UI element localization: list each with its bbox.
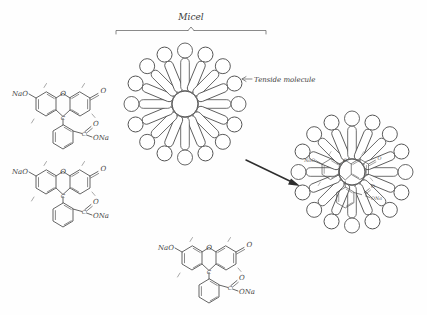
ether-oxygen-label-3: O [206, 244, 212, 252]
tenside-callout [242, 77, 252, 82]
phenolate-label-2: NaO [11, 168, 28, 176]
ketone-oxygen-label-3: O [247, 241, 253, 249]
carboxyl-carbon-label-1: C [82, 131, 87, 137]
bridge-carbon-label-2: C [61, 193, 66, 199]
phenolate-label-3: NaO [157, 244, 174, 252]
fluorescein-molecule-top-left: NaO O O C C O ONa [11, 84, 109, 150]
carboxyl-carbon-label-2: C [82, 209, 87, 215]
micelle-title: Micel [177, 12, 203, 22]
ether-oxygen-label-2: O [60, 168, 66, 176]
carbonyl-oxygen-label-1: O [93, 120, 99, 128]
carbonyl-oxygen-label-2: O [93, 198, 99, 206]
carboxyl-carbon-label-3: C [228, 285, 233, 291]
micelle-bracket [116, 27, 266, 34]
embedded-ketone-label-a: O [378, 156, 382, 161]
ether-oxygen-label-1: O [60, 90, 66, 98]
ketone-oxygen-label-1: O [101, 87, 107, 95]
bridge-carbon-label-3: C [207, 269, 212, 275]
hand-drawn-micelle-diagram: Micel [0, 0, 427, 315]
tenside-callout-label: Tenside molecule [254, 76, 316, 84]
embedded-carbonyl-label-a: O [371, 184, 375, 189]
ketone-oxygen-label-2: O [101, 165, 107, 173]
fluorescein-molecule-bottom: NaO O O C C O ONa [157, 238, 255, 304]
embedded-phenolate-label-a: NaO [303, 158, 315, 163]
phenolate-label-1: NaO [11, 90, 28, 98]
embedded-carboxylate-label-a: ONa [371, 196, 382, 201]
carboxylate-label-3: ONa [239, 288, 255, 296]
carbonyl-oxygen-label-3: O [239, 274, 245, 282]
fluorescein-molecule-mid-left: NaO O O C C O ONa [11, 162, 109, 228]
loaded-micelle: NaO O O O ONa [291, 111, 413, 233]
empty-micelle [124, 43, 246, 165]
carboxylate-label-2: ONa [93, 212, 109, 220]
embedded-ether-label-a: O [343, 158, 347, 163]
figure-canvas: Micel [0, 0, 427, 315]
bridge-carbon-label-1: C [61, 115, 66, 121]
carboxylate-label-1: ONa [93, 134, 109, 142]
